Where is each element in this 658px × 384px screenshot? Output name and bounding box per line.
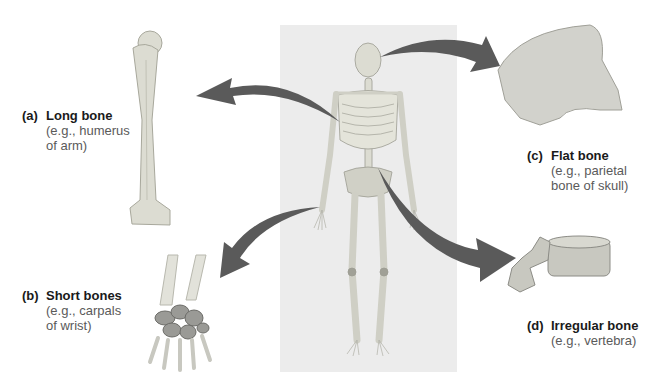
left-foot [347,340,359,356]
label-example: (e.g., carpals [22,303,122,318]
label-example: (e.g., vertebra) [527,333,638,348]
label-short-bones: (b)Short bones (e.g., carpals of wrist) [22,288,122,333]
vertebra-bone [508,236,610,292]
label-example: of arm) [22,138,130,153]
right-foot [377,340,389,356]
rib-cage [338,91,398,150]
humerus-bone [130,31,170,225]
left-hand [314,210,326,230]
label-letter: (c) [527,148,551,163]
right-leg [379,195,384,340]
human-skeleton [314,43,422,356]
label-example: (e.g., parietal [527,163,628,178]
arrow-to-short-bones [220,207,320,278]
label-title: Flat bone [551,148,609,163]
label-irregular-bone: (d)Irregular bone (e.g., vertebra) [527,318,638,348]
label-letter: (a) [22,108,46,123]
label-title: Irregular bone [551,318,638,333]
arrow-to-irregular-bone [378,168,516,282]
label-title: Long bone [46,108,112,123]
left-leg [352,195,357,340]
skull [355,43,381,77]
label-example: bone of skull) [527,178,628,193]
label-letter: (d) [527,318,551,333]
label-flat-bone: (c)Flat bone (e.g., parietal bone of sku… [527,148,628,193]
label-example: of wrist) [22,318,122,333]
label-long-bone: (a)Long bone (e.g., humerus of arm) [22,108,130,153]
right-arm [400,94,414,210]
arrow-to-flat-bone [380,36,500,72]
label-title: Short bones [46,288,122,303]
arrow-to-long-bone [196,78,340,122]
parietal-bone [498,25,622,125]
wrist-bones [150,255,210,370]
label-example: (e.g., humerus [22,123,130,138]
label-letter: (b) [22,288,46,303]
